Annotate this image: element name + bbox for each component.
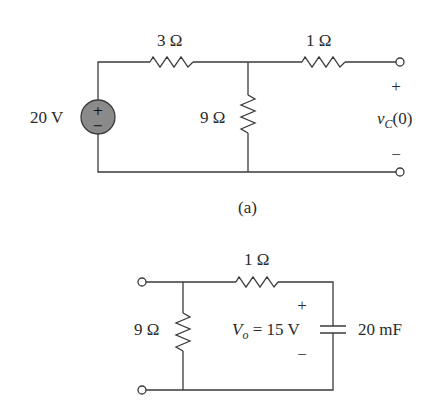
output-voltage-label: vC(0): [377, 109, 412, 131]
wire: [98, 62, 150, 100]
circuit-a: + − 20 V 3 Ω 9 Ω 1 Ω + − vC(0) (a): [30, 31, 412, 217]
resistor-9ohm-label: 9 Ω: [200, 108, 225, 127]
terminal-bottom: [138, 386, 146, 394]
initial-voltage-label: Vo = 15 V: [232, 320, 300, 342]
resistor-9ohm: [241, 95, 255, 133]
output-minus: −: [391, 145, 401, 164]
source-label: 20 V: [30, 108, 64, 127]
svg-text:+: +: [93, 103, 104, 118]
resistor-3ohm: [150, 57, 193, 67]
terminal-top: [138, 278, 146, 286]
terminal-bottom: [396, 168, 404, 176]
capacitor-label: 20 mF: [358, 320, 402, 339]
capacitor-icon: [320, 326, 346, 333]
resistor-1ohm-label: 1 Ω: [306, 31, 331, 50]
circuit-diagram: + − 20 V 3 Ω 9 Ω 1 Ω + − vC(0) (a) 1 Ω: [0, 0, 436, 409]
resistor-9ohm: [176, 313, 190, 351]
wire: [98, 134, 396, 172]
resistor-1ohm-label: 1 Ω: [244, 250, 269, 269]
resistor-1ohm: [236, 277, 278, 287]
voltage-source-icon: + −: [81, 100, 115, 134]
voltage-plus: +: [297, 296, 307, 315]
resistor-1ohm: [302, 57, 345, 67]
circuit-b: 1 Ω 9 Ω + − Vo = 15 V 20 mF: [134, 250, 402, 394]
svg-text:−: −: [93, 118, 104, 133]
output-plus: +: [391, 77, 401, 96]
figure-a-caption: (a): [238, 198, 257, 217]
resistor-3ohm-label: 3 Ω: [157, 31, 182, 50]
resistor-9ohm-label: 9 Ω: [134, 320, 159, 339]
voltage-minus: −: [297, 345, 307, 364]
terminal-top: [396, 58, 404, 66]
